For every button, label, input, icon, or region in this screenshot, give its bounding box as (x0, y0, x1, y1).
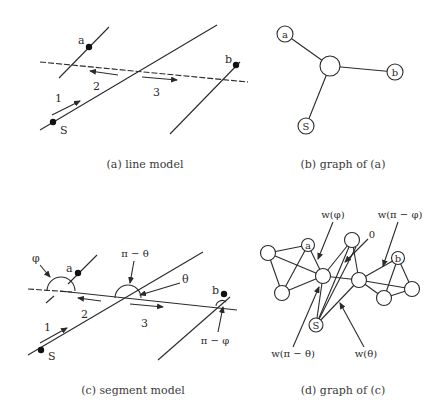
tick-left (46, 296, 54, 303)
edge (282, 245, 308, 293)
figure: a S b 1 2 3 (a) line model a b S (b) gra… (0, 0, 444, 415)
point-s (38, 347, 44, 353)
label-w-theta: w(θ) (355, 348, 377, 359)
node-a-label: a (282, 29, 288, 40)
arrow-theta (140, 283, 180, 295)
arrow-w-theta (340, 303, 364, 347)
point-s (50, 119, 56, 125)
node-right (405, 282, 420, 297)
node-a-label: a (305, 240, 311, 251)
node-center-left (316, 269, 331, 284)
label-pi-minus-theta: π − θ (121, 248, 148, 259)
label-w-phi: w(φ) (321, 209, 344, 220)
node-center-right (352, 273, 367, 288)
label-seg1: 1 (44, 321, 51, 334)
panel-d-graph: a b S w(φ) w(π − φ) 0 w(π − θ) w(θ) (d) … (261, 209, 423, 397)
label-s: S (48, 350, 56, 363)
label-b: b (212, 284, 219, 297)
edge (316, 280, 359, 325)
arrow-pi-minus-theta (130, 261, 134, 283)
label-seg2: 2 (93, 80, 100, 93)
label-w-pi-minus-phi: w(π − φ) (378, 209, 423, 220)
label-seg1: 1 (55, 92, 62, 105)
panel-a-line-model: a S b 1 2 3 (a) line model (40, 25, 248, 171)
arrow-pi-minus-phi (218, 307, 223, 332)
point-b (221, 291, 227, 297)
label-zero: 0 (369, 229, 375, 240)
arrow-2 (78, 298, 101, 301)
arrow-phi (40, 265, 50, 277)
label-phi: φ (32, 252, 40, 265)
edge (359, 280, 412, 289)
arrow-3 (142, 77, 177, 80)
arc-phi (47, 277, 75, 291)
point-b (233, 62, 239, 68)
node-bottom-left (275, 286, 290, 301)
edge (316, 247, 349, 325)
point-a (75, 270, 81, 276)
label-seg3: 3 (153, 86, 160, 99)
label-s: S (60, 124, 68, 137)
label-b: b (225, 53, 232, 66)
node-bottom-right (377, 291, 392, 306)
node-s-label: S (303, 121, 310, 132)
node-s-label: S (313, 320, 320, 331)
caption-b: (b) graph of (a) (301, 158, 386, 171)
arrow-w-pi-minus-theta (293, 287, 319, 347)
caption-c: (c) segment model (81, 384, 185, 397)
node-left (261, 246, 276, 261)
arrow-3 (130, 304, 163, 307)
node-top (345, 233, 360, 248)
edge (268, 253, 323, 276)
node-b-label: b (395, 253, 401, 264)
label-seg2: 2 (81, 308, 88, 321)
label-theta: θ (182, 273, 189, 286)
label-w-pi-minus-theta: w(π − θ) (271, 348, 315, 359)
line-b (170, 62, 240, 134)
panel-c-segment-model: a S b φ π − θ θ π − φ 1 2 3 (c) segment … (28, 248, 237, 397)
arrow-w-phi (318, 222, 333, 259)
label-a: a (66, 262, 73, 275)
node-b-label: b (392, 67, 398, 78)
label-seg3: 3 (141, 317, 148, 330)
panel-b-graph: a b S (b) graph of (a) (277, 26, 403, 171)
arrow-2 (90, 71, 118, 75)
label-pi-minus-phi: π − φ (201, 335, 229, 346)
caption-d: (d) graph of (c) (301, 384, 386, 397)
caption-a: (a) line model (107, 158, 184, 171)
label-a: a (78, 34, 85, 47)
node-center (320, 56, 340, 76)
point-a (86, 44, 92, 50)
line-s (40, 25, 217, 130)
